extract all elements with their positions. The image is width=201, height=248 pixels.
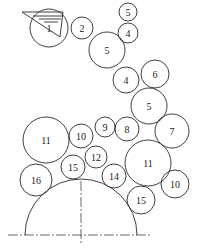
circle-label: 14: [109, 171, 119, 182]
circle-5: 5: [89, 32, 125, 68]
circles-group: 12545465789101112111014151615: [20, 3, 189, 214]
circle-6: 6: [141, 60, 169, 88]
circle-10: 10: [161, 170, 189, 198]
circle-label: 5: [126, 7, 131, 18]
diagram-canvas: 12545465789101112111014151615: [0, 0, 201, 248]
circle-12: 12: [85, 146, 107, 168]
circle-1: 1: [30, 9, 68, 47]
base-semicircle: [8, 179, 152, 245]
circle-11: 11: [125, 140, 171, 186]
circle-14: 14: [102, 164, 126, 188]
circle-4: 4: [118, 23, 138, 43]
circle-chain-diagram: 12545465789101112111014151615: [0, 0, 201, 248]
circle-16: 16: [20, 164, 52, 196]
circle-15: 15: [127, 186, 155, 214]
circle-label: 4: [126, 28, 131, 39]
circle-label: 12: [91, 152, 101, 163]
circle-label: 11: [143, 158, 153, 169]
circle-label: 1: [47, 23, 52, 34]
circle-4: 4: [113, 67, 139, 93]
circle-10: 10: [69, 124, 93, 148]
circle-label: 15: [68, 162, 78, 173]
circle-label: 15: [136, 195, 146, 206]
circle-label: 5: [105, 45, 110, 56]
circle-label: 9: [103, 122, 108, 133]
circle-label: 6: [153, 69, 158, 80]
circle-15: 15: [61, 155, 85, 179]
circle-label: 10: [170, 179, 180, 190]
circle-label: 8: [125, 124, 130, 135]
circle-label: 10: [76, 131, 86, 142]
circle-label: 16: [31, 175, 41, 186]
circle-5: 5: [131, 88, 167, 124]
circle-8: 8: [115, 117, 139, 141]
circle-7: 7: [155, 114, 189, 148]
circle-5: 5: [119, 3, 137, 21]
circle-11: 11: [23, 117, 69, 163]
circle-9: 9: [95, 117, 115, 137]
circle-label: 4: [124, 75, 129, 86]
circle-label: 7: [170, 126, 175, 137]
circle-label: 11: [41, 135, 51, 146]
circle-label: 5: [147, 101, 152, 112]
water-level-wedge-icon: [22, 12, 63, 37]
circle-label: 2: [80, 23, 85, 34]
circle-2: 2: [71, 17, 93, 39]
